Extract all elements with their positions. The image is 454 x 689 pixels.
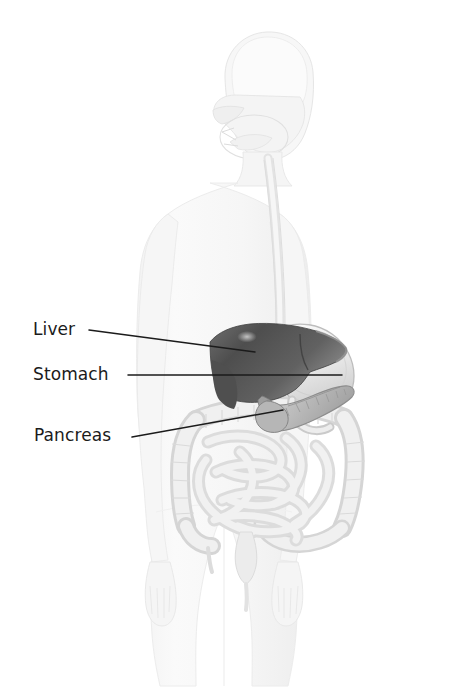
figure-canvas: Liver Stomach Pancreas: [0, 0, 454, 689]
label-stomach: Stomach: [33, 366, 109, 383]
left-hand: [145, 562, 176, 626]
label-pancreas: Pancreas: [34, 427, 111, 444]
right-hand: [272, 562, 303, 626]
label-liver: Liver: [33, 321, 75, 338]
anatomy-illustration: [0, 0, 454, 689]
